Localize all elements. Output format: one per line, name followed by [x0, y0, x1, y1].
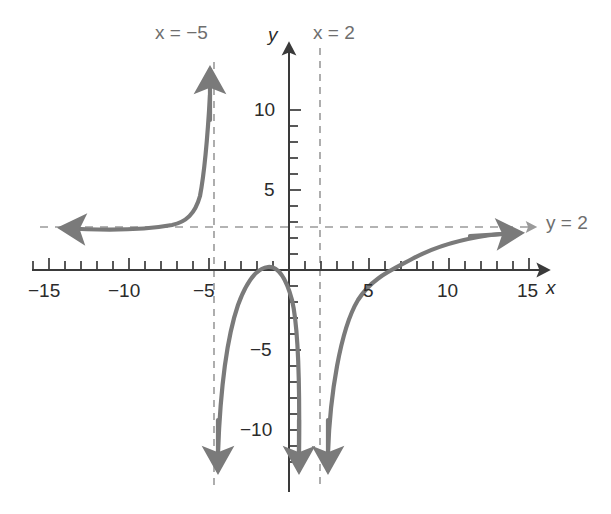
asymptote-group — [40, 48, 535, 488]
y-tick-label-neg10: −10 — [240, 419, 272, 441]
x-tick-label-neg15: −15 — [28, 280, 60, 302]
x-tick-label-5: 5 — [363, 280, 374, 302]
y-tick-label-5: 5 — [264, 179, 275, 201]
asymptote-label-horizontal: y = 2 — [546, 212, 588, 234]
x-tick-label-10: 10 — [437, 280, 458, 302]
x-tick-label-neg10: −10 — [108, 280, 140, 302]
x-axis-ticks — [33, 258, 529, 270]
curve-branch-left — [62, 95, 210, 229]
x-tick-label-15: 15 — [517, 280, 538, 302]
graph-canvas — [0, 0, 611, 514]
asymptote-label-vertical-right: x = 2 — [313, 22, 355, 44]
curve-branch-right-arrow-right — [470, 233, 520, 236]
y-tick-label-10: 10 — [254, 99, 275, 121]
x-axis-label: x — [546, 277, 556, 299]
y-axis-label: y — [268, 24, 278, 46]
graph-figure: x = −5 x = 2 y = 2 y x −15 −10 −5 5 10 1… — [0, 0, 611, 514]
axes-group — [32, 44, 548, 492]
y-tick-label-neg5: −5 — [250, 339, 272, 361]
asymptote-label-vertical-left: x = −5 — [155, 22, 208, 44]
x-tick-label-neg5: −5 — [193, 280, 215, 302]
